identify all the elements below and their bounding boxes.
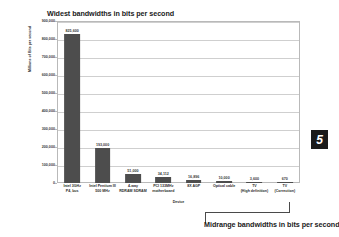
bar-value-label: 10,000 [218,176,229,180]
x-tick-label-line: RDRAM SDRAM [118,189,148,194]
bar-slot: 51,000 [118,21,148,183]
x-tick-label-line: (High definition) [239,189,269,194]
bar[interactable] [216,181,232,183]
y-axis-title: Millions of Bits per second [28,6,32,92]
bracket-top-line [205,212,290,213]
bar-value-label: 825,600 [66,29,79,33]
x-tick-label: Intel Pentium III500 MHz [87,184,117,193]
bracket-right-tick [289,202,290,212]
bar[interactable] [125,174,141,183]
y-tick-label: 100,000 [27,163,55,167]
bar-value-label: 193,000 [96,143,109,147]
x-tick-label-line: 500 MHz [87,189,117,194]
bar-slot: 825,600 [57,21,87,183]
x-tick-label: TV(High definition) [239,184,269,193]
page-number-badge: 5 [311,130,328,149]
x-tick-label: Optical cable [209,184,239,189]
bar[interactable] [64,34,80,183]
bar-slot: 670 [270,21,300,183]
x-tick-label: PCI 133MHzmotherboard [148,184,178,193]
bar[interactable] [277,182,293,183]
x-tick-label: 4-wayRDRAM SDRAM [118,184,148,193]
x-axis-labels: Intel 3GHzP4, busIntel Pentium III500 MH… [57,184,300,201]
bar[interactable] [95,148,111,183]
x-axis-title: Device [57,200,300,204]
y-tick-label: 200,000 [27,145,55,149]
bar[interactable] [247,182,263,183]
y-tick-label: 400,000 [27,109,55,113]
bar[interactable] [186,180,202,183]
bar-slot: 34,112 [148,21,178,183]
x-tick-label-line: motherboard [148,189,178,194]
x-tick-label-line: P4, bus [57,189,87,194]
bar-value-label: 34,112 [158,172,169,176]
bar[interactable] [155,177,171,183]
bar-slot: 10,000 [209,21,239,183]
bars-layer: 825,600193,00051,00034,11216,89610,0003,… [57,21,300,183]
x-tick-label-line: Optical cable [209,184,239,189]
x-tick-label-line: (Correction) [270,189,300,194]
x-tick-label: TV(Correction) [270,184,300,193]
bar-slot: 16,896 [179,21,209,183]
bar-value-label: 3,600 [250,177,259,181]
bar-value-label: 16,896 [188,175,199,179]
y-tick-label: 0 [27,181,55,185]
bar-slot: 3,600 [239,21,269,183]
chart-title: Widest bandwidths in bits per second [47,9,174,18]
bar-value-label: 670 [282,177,288,181]
x-tick-label: Intel 3GHzP4, bus [57,184,87,193]
bar-slot: 193,000 [87,21,117,183]
x-tick-label-line: 8X AGP [179,184,209,189]
y-tick-label: 300,000 [27,127,55,131]
x-tick-label: 8X AGP [179,184,209,189]
figure-caption: Midrange bandwidths in bits per second [204,220,339,229]
midrange-bracket [205,206,290,218]
bar-value-label: 51,000 [127,169,138,173]
